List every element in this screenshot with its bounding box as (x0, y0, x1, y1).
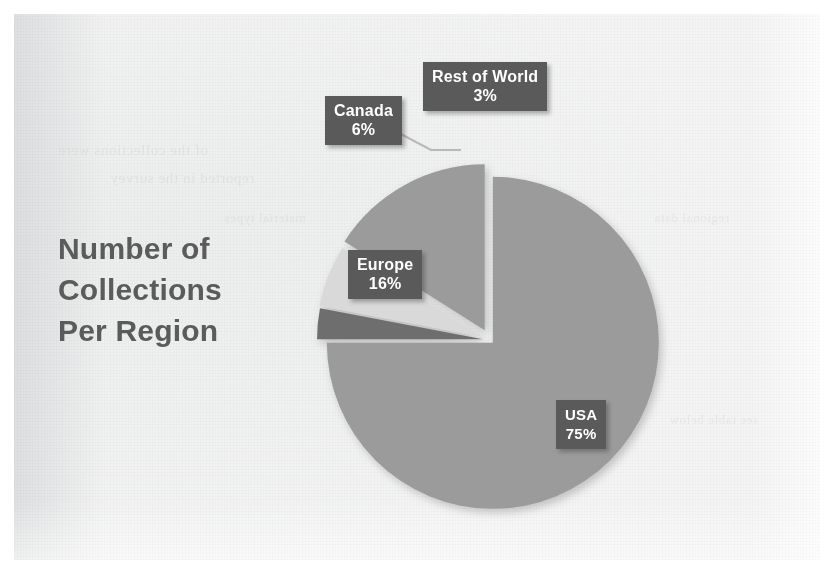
data-label-europe[interactable]: Europe 16% (348, 250, 422, 299)
ghost-text: material types (224, 210, 306, 226)
data-label-value: 3% (432, 86, 538, 105)
data-label-value: 16% (357, 274, 413, 293)
data-label-rest-of-world[interactable]: Rest of World 3% (423, 62, 547, 111)
page-title-line-3: Per Region (58, 310, 308, 351)
data-label-usa[interactable]: USA 75% (556, 400, 606, 449)
page-title: Number of Collections Per Region (58, 228, 308, 351)
data-label-canada[interactable]: Canada 6% (325, 96, 402, 145)
ghost-text: of the collections were (58, 142, 208, 159)
data-label-name: Europe (357, 255, 413, 274)
page-shading-right (750, 14, 820, 560)
data-label-value: 75% (565, 424, 597, 443)
data-label-name: Rest of World (432, 67, 538, 86)
scanned-page: of the collections were reported in the … (0, 0, 832, 588)
data-label-name: USA (565, 405, 597, 424)
data-label-name: Canada (334, 101, 393, 120)
pie-chart-svg (300, 150, 700, 550)
ghost-text: reported in the survey (110, 170, 254, 187)
page-title-line-1: Number of (58, 228, 308, 269)
page-title-line-2: Collections (58, 269, 308, 310)
data-label-value: 6% (334, 120, 393, 139)
pie-chart (300, 150, 700, 550)
